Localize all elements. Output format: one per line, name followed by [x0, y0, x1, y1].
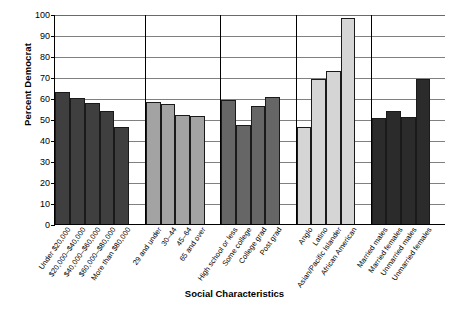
- bar-group: [220, 15, 295, 224]
- x-axis-tick-labels: Under $20,000$20,000–$40,000$40,000–$60,…: [54, 226, 445, 288]
- group-gap: [355, 15, 371, 224]
- bar[interactable]: [401, 117, 416, 224]
- bar[interactable]: [100, 111, 115, 224]
- plot-area: 0102030405060708090100: [54, 15, 445, 225]
- bar[interactable]: [114, 127, 129, 224]
- bar[interactable]: [221, 100, 236, 224]
- bar[interactable]: [70, 98, 85, 224]
- bar[interactable]: [190, 116, 205, 224]
- bar[interactable]: [416, 79, 431, 224]
- y-axis-title: Percent Democrat: [22, 5, 33, 165]
- bar-group: [55, 15, 145, 224]
- x-axis-title: Social Characteristics: [0, 288, 469, 299]
- bar[interactable]: [297, 127, 312, 224]
- bar[interactable]: [311, 79, 326, 224]
- x-tick-label: 29 and under: [132, 226, 163, 266]
- bar[interactable]: [161, 104, 176, 224]
- bar-chart: Percent Democrat 0102030405060708090100 …: [0, 0, 469, 309]
- bar-group: [296, 15, 371, 224]
- bar[interactable]: [85, 103, 100, 224]
- bar[interactable]: [175, 115, 190, 224]
- bar[interactable]: [341, 18, 356, 224]
- bar[interactable]: [386, 111, 401, 224]
- group-gap: [280, 15, 296, 224]
- bar[interactable]: [326, 71, 341, 224]
- group-gap: [430, 15, 446, 224]
- bar[interactable]: [55, 92, 70, 224]
- bar[interactable]: [146, 102, 161, 224]
- bar[interactable]: [251, 106, 266, 224]
- group-gap: [205, 15, 221, 224]
- bar-groups: [55, 15, 445, 224]
- bar-group: [145, 15, 220, 224]
- bar[interactable]: [236, 125, 251, 224]
- bar[interactable]: [265, 97, 280, 224]
- bar-group: [371, 15, 446, 224]
- group-gap: [129, 15, 145, 224]
- bar[interactable]: [372, 118, 387, 224]
